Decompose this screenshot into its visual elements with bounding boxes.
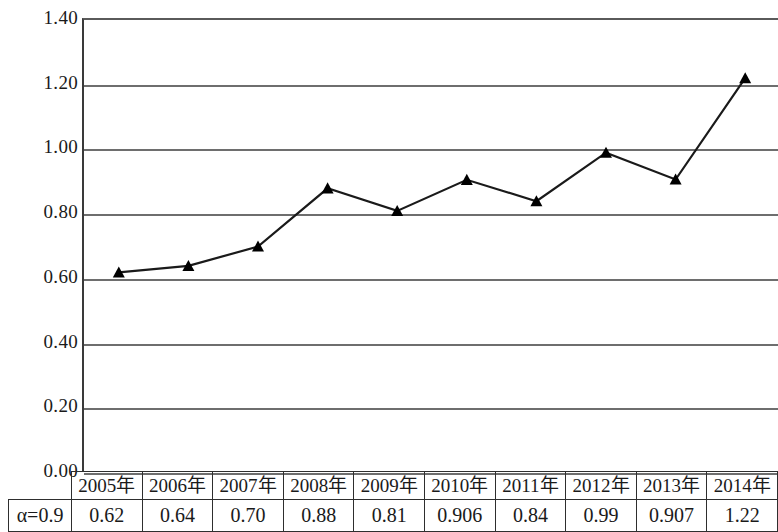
- table-header-cell: 2009年: [354, 472, 425, 500]
- table-header-cell: 2012年: [566, 472, 637, 500]
- table-corner-cell: [9, 472, 72, 500]
- table-value-cell: 0.62: [72, 500, 143, 532]
- table-header-cell: 2014年: [707, 472, 778, 500]
- y-axis-tick-label: 0.80: [6, 202, 78, 221]
- y-axis-tick-label: 1.00: [6, 137, 78, 156]
- table-header-cell: 2005年: [72, 472, 143, 500]
- table-value-cell: 0.88: [283, 500, 354, 532]
- table-value-cell: 1.22: [707, 500, 778, 532]
- table-header-cell: 2006年: [142, 472, 213, 500]
- data-point-marker: [461, 174, 473, 185]
- table-header-cell: 2007年: [213, 472, 284, 500]
- y-axis-tick-label: 0.20: [6, 396, 78, 415]
- plot-area: [82, 18, 778, 471]
- table-value-row: α=0.9 0.620.640.700.880.810.9060.840.990…: [9, 500, 778, 532]
- data-table: 2005年2006年2007年2008年2009年2010年2011年2012年…: [8, 471, 778, 532]
- table-value-cell: 0.99: [566, 500, 637, 532]
- table-header-cell: 2013年: [636, 472, 707, 500]
- data-point-marker: [322, 182, 334, 193]
- table-header-cell: 2011年: [495, 472, 566, 500]
- table-value-cell: 0.70: [213, 500, 284, 532]
- table-value-cell: 0.81: [354, 500, 425, 532]
- data-point-marker: [600, 147, 612, 158]
- table-header-cell: 2008年: [283, 472, 354, 500]
- table-row-label: α=0.9: [9, 500, 72, 532]
- series-markers-alpha-09: [113, 72, 751, 277]
- y-axis-tick-label: 0.60: [6, 267, 78, 286]
- table-header-row: 2005年2006年2007年2008年2009年2010年2011年2012年…: [9, 472, 778, 500]
- table-value-cell: 0.64: [142, 500, 213, 532]
- table-header-cell: 2010年: [425, 472, 496, 500]
- y-axis-tick-label: 1.20: [6, 73, 78, 92]
- y-axis-tick-label: 1.40: [6, 8, 78, 27]
- table-value-cell: 0.906: [425, 500, 496, 532]
- data-point-marker: [739, 72, 751, 83]
- table-value-cell: 0.907: [636, 500, 707, 532]
- table-value-cell: 0.84: [495, 500, 566, 532]
- data-series-layer: [84, 20, 778, 473]
- y-axis-tick-label: 0.40: [6, 332, 78, 351]
- series-line-alpha-09: [119, 78, 745, 272]
